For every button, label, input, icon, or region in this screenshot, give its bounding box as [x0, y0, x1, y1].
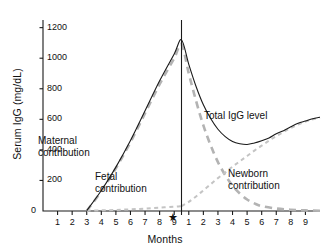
y-tick-label: 600: [47, 113, 62, 123]
fetal-contribution-label: Fetal contribution: [95, 171, 147, 195]
chart-plot-area: [0, 0, 328, 249]
series-newborn-contribution: [182, 117, 321, 206]
maternal-contribution-label: Maternal contribution: [38, 135, 90, 159]
maternal-label-line2: contribution: [38, 147, 90, 159]
y-tick-label: 800: [47, 83, 62, 93]
y-tick-label: 1000: [47, 52, 67, 62]
newborn-contribution-label: Newborn contribution: [228, 168, 280, 192]
fetal-label-line2: contribution: [95, 183, 147, 195]
y-tick-label: 400: [47, 144, 62, 154]
y-tick-label: 200: [47, 174, 62, 184]
y-tick-label: 0: [31, 205, 36, 215]
newborn-label-line2: contribution: [228, 180, 280, 192]
igg-chart-figure: Serum IgG (mg/dL) Months ★ Maternal cont…: [0, 0, 328, 249]
total-label-line1: Total IgG level: [204, 110, 267, 122]
maternal-label-line1: Maternal: [38, 135, 90, 147]
fetal-label-line1: Fetal: [95, 171, 147, 183]
total-igg-level-label: Total IgG level: [204, 110, 267, 122]
x-tick-label: 9: [297, 217, 313, 227]
y-axis-title: Serum IgG (mg/dL): [11, 44, 23, 184]
x-axis-title: Months: [135, 233, 195, 245]
series-fetal-contribution: [87, 206, 182, 211]
y-tick-label: 1200: [47, 22, 67, 32]
newborn-label-line1: Newborn: [228, 168, 280, 180]
